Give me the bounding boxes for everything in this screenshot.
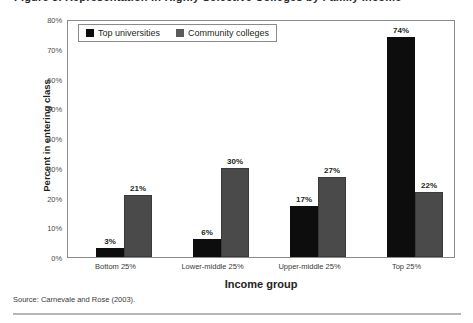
legend-item-community-colleges: Community colleges	[176, 28, 269, 38]
legend-item-top-universities: Top universities	[86, 28, 160, 38]
bar-value-label: 74%	[381, 26, 421, 35]
bar-top-universities[interactable]	[96, 248, 124, 257]
bar-value-label: 21%	[118, 184, 158, 193]
y-axis-tick-label: 20%	[0, 194, 62, 203]
y-axis-ticks: 0%10%20%30%40%50%60%70%80%	[0, 20, 67, 258]
bar-group: 6%30%	[165, 21, 262, 257]
legend-swatch-icon-community-colleges	[176, 29, 184, 37]
y-axis-tick-label: 0%	[0, 254, 62, 263]
y-axis-tick-label: 10%	[0, 224, 62, 233]
bottom-divider	[13, 313, 461, 315]
legend-label-top-universities: Top universities	[98, 28, 160, 38]
bar-top-universities[interactable]	[387, 37, 415, 257]
legend-label-community-colleges: Community colleges	[188, 28, 269, 38]
bar-community-colleges[interactable]	[415, 192, 443, 257]
y-axis-tick-label: 60%	[0, 75, 62, 84]
x-axis-label: Income group	[67, 278, 455, 290]
source-note: Source: Carnevale and Rose (2003).	[13, 295, 135, 304]
legend-swatch-icon-top-universities	[86, 29, 94, 37]
x-axis-tick-label: Top 25%	[347, 262, 467, 271]
bar-group: 17%27%	[262, 21, 359, 257]
y-axis-tick-label: 40%	[0, 135, 62, 144]
bar-community-colleges[interactable]	[124, 195, 152, 257]
bar-top-universities[interactable]	[290, 206, 318, 257]
plot-area: 3%21%6%30%17%27%74%22%	[67, 20, 455, 258]
bar-community-colleges[interactable]	[221, 168, 249, 257]
y-axis-tick-label: 50%	[0, 105, 62, 114]
bar-community-colleges[interactable]	[318, 177, 346, 257]
y-axis-tick-label: 70%	[0, 45, 62, 54]
chart-legend: Top universities Community colleges	[78, 24, 277, 42]
y-axis-tick-label: 30%	[0, 164, 62, 173]
figure-container: Percent in entering class 0%10%20%30%40%…	[0, 0, 473, 323]
bar-value-label: 27%	[312, 166, 352, 175]
bar-group: 3%21%	[68, 21, 165, 257]
y-axis-tick-label: 80%	[0, 16, 62, 25]
bar-value-label: 30%	[215, 157, 255, 166]
bar-value-label: 22%	[409, 181, 449, 190]
bar-group: 74%22%	[359, 21, 456, 257]
bar-top-universities[interactable]	[193, 239, 221, 257]
